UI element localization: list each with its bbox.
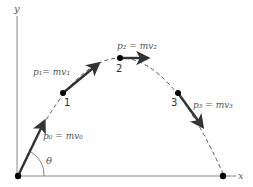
projectile-diagram: y x θ p₀ = mv₀ p₁= mv₁ 1 p₂ = mv₂ 2 p₃ =… — [0, 0, 253, 187]
x-axis-label: x — [238, 170, 244, 181]
vector-label-p1: p₁= mv₁ — [33, 67, 70, 77]
point-2 — [117, 55, 123, 61]
point-label-3: 3 — [171, 97, 177, 108]
point-end — [220, 173, 226, 179]
angle-theta-label: θ — [46, 155, 52, 166]
point-label-1: 1 — [64, 97, 70, 108]
angle-arc — [31, 152, 44, 176]
vector-label-p2: p₂ = mv₂ — [117, 41, 157, 51]
point-3 — [175, 90, 181, 96]
point-label-2: 2 — [116, 63, 122, 74]
momentum-vector-p0 — [18, 122, 44, 176]
y-axis-label: y — [13, 3, 20, 14]
vector-label-p3: p₃ = mv₃ — [193, 100, 233, 110]
vector-label-p0: p₀ = mv₀ — [43, 131, 83, 141]
point-origin — [15, 173, 21, 179]
point-1 — [60, 90, 66, 96]
